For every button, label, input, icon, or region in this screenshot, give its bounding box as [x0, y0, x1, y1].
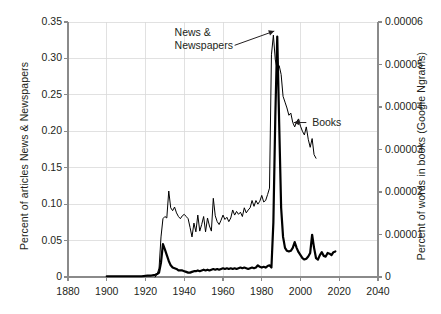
y-tick-label-right-3: 0.00003: [385, 143, 423, 155]
chart-container: Percent of articles News & Newspapers Pe…: [0, 0, 441, 314]
gridlines: [68, 22, 378, 277]
y-tick-label-right-1: 0.00001: [385, 228, 423, 240]
y-tick-label-left-7: 0.35: [10, 15, 62, 27]
y-tick-label-right-2: 0.00002: [385, 185, 423, 197]
y-tick-label-left-1: 0.05: [10, 234, 62, 246]
y-tick-label-left-0: 0: [10, 270, 62, 282]
y-tick-label-left-3: 0.15: [10, 161, 62, 173]
y-tick-label-right-5: 0.00005: [385, 58, 423, 70]
y-tick-label-right-0: 0: [385, 270, 391, 282]
annotation-books: Books: [312, 116, 341, 129]
y-tick-label-right-6: 0.00006: [385, 15, 423, 27]
x-tick-label-8: 2040: [353, 285, 403, 297]
y-tick-label-left-2: 0.10: [10, 197, 62, 209]
y-tick-label-left-4: 0.20: [10, 124, 62, 136]
annotation-news-newspapers: News & Newspapers: [175, 26, 233, 52]
y-tick-label-left-5: 0.25: [10, 88, 62, 100]
arrow-news-newspapers: [235, 30, 275, 45]
y-tick-label-right-4: 0.00004: [385, 100, 423, 112]
y-tick-label-left-6: 0.30: [10, 51, 62, 63]
annotation-news-line1: News &: [175, 26, 233, 39]
annotation-news-line2: Newspapers: [175, 39, 233, 52]
